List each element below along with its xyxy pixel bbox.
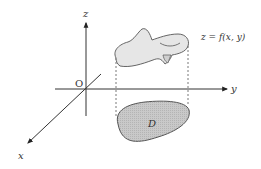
x-axis: [28, 74, 101, 143]
surface: [115, 29, 189, 67]
diagram-canvas: z y x O z = f(x, y) D: [0, 0, 261, 169]
surface-label: z = f(x, y): [200, 32, 246, 42]
y-axis-label: y: [230, 83, 237, 94]
diagram-svg: z y x O z = f(x, y) D: [0, 0, 261, 169]
z-axis-label: z: [82, 8, 89, 19]
region-label: D: [147, 118, 156, 129]
origin-label: O: [75, 78, 83, 89]
x-axis-label: x: [18, 150, 24, 161]
